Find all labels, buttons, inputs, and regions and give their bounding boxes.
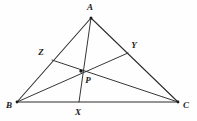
point-A — [90, 17, 93, 20]
cevian-BY — [17, 53, 128, 102]
point-C — [177, 101, 180, 104]
triangle-diagram: A B C P X Y Z — [0, 0, 197, 121]
label-P: P — [85, 75, 91, 85]
point-P — [79, 69, 82, 72]
label-A: A — [86, 2, 93, 12]
label-Y: Y — [131, 40, 138, 50]
side-AB — [17, 18, 91, 102]
label-B: B — [5, 100, 12, 110]
cevian-AX — [79, 18, 91, 102]
label-C: C — [183, 100, 190, 110]
label-X: X — [74, 107, 82, 117]
side-AC — [91, 18, 178, 102]
point-B — [16, 101, 19, 104]
cevian-CZ — [52, 60, 178, 102]
diagram-canvas: A B C P X Y Z — [0, 0, 197, 121]
label-Z: Z — [37, 47, 44, 57]
